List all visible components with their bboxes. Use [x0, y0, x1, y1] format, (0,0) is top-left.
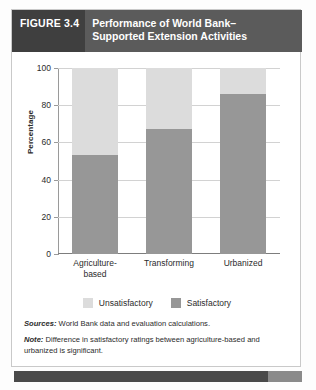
sources-label: Sources: — [24, 319, 57, 328]
note-text: Difference in satisfactory ratings betwe… — [24, 335, 260, 356]
x-axis-labels: Agriculture-basedTransformingUrbanized — [58, 258, 280, 292]
figure-title-bar: FIGURE 3.4 Performance of World Bank– Su… — [12, 10, 302, 52]
y-axis-tick — [54, 180, 58, 181]
chart-plot: 020406080100 — [58, 68, 280, 254]
y-axis-tick-label: 20 — [42, 212, 51, 222]
y-axis-tick — [54, 142, 58, 143]
page-footer-bar-tail — [268, 371, 302, 382]
legend-swatch — [83, 298, 93, 308]
page-footer-bar — [14, 371, 302, 382]
figure-page: FIGURE 3.4 Performance of World Bank– Su… — [0, 0, 316, 390]
y-axis-tick-label: 80 — [42, 100, 51, 110]
x-axis-label: Urbanized — [198, 258, 288, 269]
y-axis-line — [58, 68, 59, 255]
legend-item: Unsatisfactory — [83, 298, 153, 308]
legend-swatch — [171, 298, 181, 308]
y-axis-tick — [54, 105, 58, 106]
y-axis-label: Percentage — [26, 92, 35, 172]
legend-label: Unsatisfactory — [99, 298, 153, 308]
chart-bar — [220, 68, 266, 254]
y-axis-tick-label: 100 — [37, 63, 51, 73]
x-axis-label-line: Urbanized — [198, 258, 288, 269]
figure-title-cell: Performance of World Bank– Supported Ext… — [85, 10, 253, 43]
note-label: Note: — [24, 335, 43, 344]
bar-segment-satisfactory — [146, 129, 192, 254]
legend-item: Satisfactory — [171, 298, 231, 308]
y-axis-tick — [54, 254, 58, 255]
x-axis-label-line: based — [50, 269, 140, 280]
note-row: Note: Difference in satisfactory ratings… — [24, 334, 292, 357]
figure-notes: Sources: World Bank data and evaluation … — [24, 318, 292, 361]
chart-legend: UnsatisfactorySatisfactory — [12, 298, 302, 308]
bar-segment-satisfactory — [220, 94, 266, 254]
bar-segment-unsatisfactory — [146, 68, 192, 129]
sources-text: World Bank data and evaluation calculati… — [57, 319, 211, 328]
y-axis-tick — [54, 217, 58, 218]
chart-bar — [72, 68, 118, 254]
chart-area: Percentage 020406080100 Agriculture-base… — [12, 52, 302, 302]
bar-segment-satisfactory — [72, 155, 118, 254]
y-axis-tick — [54, 68, 58, 69]
y-axis-tick-label: 60 — [42, 137, 51, 147]
figure-number-cell: FIGURE 3.4 — [12, 10, 85, 52]
bar-segment-unsatisfactory — [72, 68, 118, 155]
legend-label: Satisfactory — [187, 298, 231, 308]
figure-title-line-1: Performance of World Bank– — [92, 17, 247, 30]
figure-title-line-2: Supported Extension Activities — [92, 30, 247, 43]
sources-row: Sources: World Bank data and evaluation … — [24, 318, 292, 330]
bar-segment-unsatisfactory — [220, 68, 266, 94]
figure-number-label: FIGURE 3.4 — [20, 17, 79, 29]
chart-bar — [146, 68, 192, 254]
figure-container: FIGURE 3.4 Performance of World Bank– Su… — [11, 9, 301, 367]
y-axis-tick-label: 40 — [42, 175, 51, 185]
